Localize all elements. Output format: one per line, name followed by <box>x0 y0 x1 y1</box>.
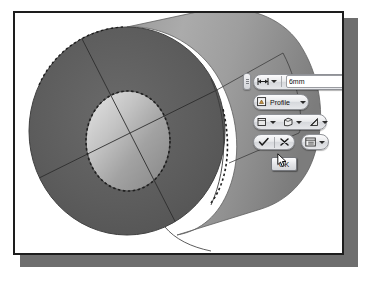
toolbar-separator <box>281 76 282 87</box>
taper-angle-icon <box>309 117 320 127</box>
profile-select-button[interactable]: Profile <box>256 95 293 109</box>
model-viewport[interactable]: 6mm Profile <box>15 13 342 253</box>
boolean-join-button[interactable] <box>282 115 304 129</box>
toolbar-row-profile: Profile <box>253 94 309 110</box>
apply-button[interactable] <box>256 135 272 149</box>
distance-value: 6mm <box>289 75 305 88</box>
boolean-join-icon <box>283 117 294 127</box>
checkmark-icon <box>258 137 270 147</box>
more-options-pill <box>301 134 329 150</box>
options-pill <box>253 114 327 130</box>
solid-body-icon <box>257 117 268 127</box>
profile-pill: Profile <box>253 94 309 110</box>
options-list-icon <box>305 137 317 147</box>
toolbar-separator <box>274 137 275 148</box>
chevron-down-icon <box>271 80 277 83</box>
distance-input[interactable]: 6mm <box>286 75 344 88</box>
extrude-mini-toolbar[interactable]: 6mm Profile <box>243 73 344 171</box>
profile-sketch-icon <box>257 97 268 107</box>
more-options-button[interactable] <box>304 135 327 149</box>
apply-cancel-pill <box>253 134 295 150</box>
close-x-icon <box>279 137 290 147</box>
leader-line <box>165 227 211 251</box>
distance-pill: 6mm <box>253 74 344 90</box>
toolbar-drag-grip[interactable] <box>243 73 251 90</box>
extent-type-button[interactable] <box>256 75 279 89</box>
chevron-down-icon <box>322 121 328 124</box>
extent-distance-icon <box>257 77 269 86</box>
chevron-down-icon <box>319 141 325 144</box>
taper-angle-button[interactable] <box>308 115 330 129</box>
cancel-button[interactable] <box>276 135 292 149</box>
profile-dropdown-button[interactable] <box>297 95 308 109</box>
solid-body-button[interactable] <box>256 115 278 129</box>
cad-canvas-frame: 6mm Profile <box>13 11 344 255</box>
chevron-down-icon <box>300 101 306 104</box>
toolbar-row-options <box>253 114 327 130</box>
chevron-down-icon <box>296 121 302 124</box>
toolbar-row-actions <box>253 134 329 150</box>
screenshot-root: 6mm Profile <box>0 0 366 283</box>
toolbar-row-distance: 6mm <box>243 73 344 90</box>
chevron-down-icon <box>270 121 276 124</box>
ok-button[interactable]: OK <box>271 157 297 171</box>
profile-label: Profile <box>268 96 292 109</box>
